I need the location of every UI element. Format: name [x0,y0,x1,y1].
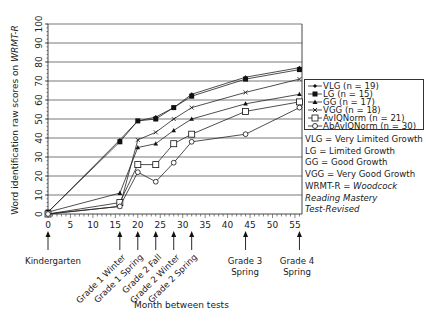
open-square-marker-icon [307,114,323,122]
axes: 0102030405060708090100051015202530354045… [34,15,302,230]
note-wrmt-cont2: Test-Revised [305,204,423,216]
x-axis-title: Month between tests [134,300,229,310]
svg-text:0: 0 [45,220,51,230]
y-axis-label-text: Word identification raw scores on [10,62,20,215]
note-wrmt-cont1: Reading Mastery [305,193,423,205]
small-diamond-marker-icon [307,82,323,90]
svg-text:55: 55 [289,220,300,230]
event-label-grade4-spring: Grade 4Spring [280,256,314,278]
legend-item-abaviqnorm: AbAvIQNorm (n = 30) [307,122,416,130]
cross-marker-icon [307,106,323,114]
event-arrows [46,231,302,250]
svg-text:70: 70 [34,75,44,87]
legend: VLG (n = 19) LG (n = 15) GG (n = 17) VGG… [304,79,424,130]
event-label-grade3-spring: Grade 3Spring [228,256,262,278]
svg-text:35: 35 [199,220,210,230]
svg-text:30: 30 [177,220,189,230]
svg-text:50: 50 [34,113,44,125]
abbreviation-notes: VLG = Very Limited Growth LG = Limited G… [305,134,423,216]
svg-text:40: 40 [34,132,44,144]
svg-text:80: 80 [34,56,44,68]
open-circle-marker-icon [307,122,323,130]
note-vgg: VGG = Very Good Growth [305,169,423,181]
filled-square-marker-icon [307,90,323,98]
svg-text:5: 5 [68,220,74,230]
svg-text:40: 40 [222,220,234,230]
svg-text:20: 20 [132,220,144,230]
svg-text:60: 60 [34,94,44,106]
series-lines [45,66,302,217]
note-gg: GG = Good Growth [305,157,423,169]
event-label-kindergarten: Kindergarten [25,256,81,267]
svg-text:20: 20 [34,170,44,182]
svg-text:30: 30 [34,151,44,163]
svg-text:45: 45 [244,220,255,230]
svg-text:10: 10 [34,189,44,201]
svg-text:10: 10 [87,220,99,230]
svg-text:50: 50 [267,220,279,230]
svg-text:0: 0 [34,211,44,217]
filled-triangle-marker-icon [307,98,323,106]
note-lg: LG = Limited Growth [305,146,423,158]
note-vlg: VLG = Very Limited Growth [305,134,423,146]
svg-text:100: 100 [34,15,44,32]
y-axis-label-italic: WRMT-R [10,25,20,62]
note-wrmt: WRMT-R = Woodcock [305,181,423,193]
svg-text:25: 25 [155,220,166,230]
svg-text:15: 15 [110,220,121,230]
svg-text:90: 90 [34,37,44,49]
y-axis-label: Word identification raw scores on WRMT-R [10,25,20,215]
